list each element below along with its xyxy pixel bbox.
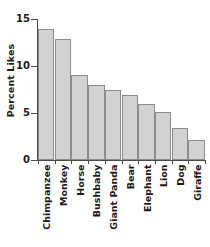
y-axis-tick-mark bbox=[31, 113, 37, 114]
bar bbox=[55, 39, 71, 160]
x-axis-tick-label-text: Horse bbox=[74, 165, 85, 245]
y-axis-tick-mark bbox=[31, 66, 37, 67]
y-axis-title: Percent Likes bbox=[0, 0, 22, 160]
x-axis-tick-label-text: Bear bbox=[124, 165, 135, 245]
x-axis-tick-label-text: Elephant bbox=[141, 165, 152, 245]
bar bbox=[38, 29, 54, 160]
x-axis-tick-label: Giant Panda bbox=[105, 163, 121, 247]
x-axis-tick-label-text: Dog bbox=[174, 165, 185, 245]
x-axis-tick-mark bbox=[172, 160, 173, 164]
y-axis-tick-label: 15 bbox=[0, 14, 30, 24]
x-axis-tick-label: Chimpanzee bbox=[38, 163, 54, 247]
bar-series bbox=[38, 19, 205, 160]
x-axis-tick-mark bbox=[38, 160, 39, 164]
x-axis-tick-label: Lion bbox=[155, 163, 171, 247]
x-axis-tick-mark bbox=[88, 160, 89, 164]
x-axis-tick-mark bbox=[55, 160, 56, 164]
y-axis-tick-label: 0 bbox=[0, 155, 30, 165]
bar bbox=[105, 90, 121, 160]
x-axis-tick-label: Giraffe bbox=[189, 163, 205, 247]
x-axis-tick-label-text: Giant Panda bbox=[108, 165, 119, 245]
x-axis-tick-labels: ChimpanzeeMonkeyHorseBushbabyGiant Panda… bbox=[38, 163, 205, 247]
x-axis-tick-mark bbox=[205, 160, 206, 164]
x-axis-tick-label-text: Bushbaby bbox=[91, 165, 102, 245]
y-axis-tick-mark bbox=[31, 19, 37, 20]
x-axis-tick-mark bbox=[188, 160, 189, 164]
x-axis-tick-label-text: Giraffe bbox=[191, 165, 202, 245]
bar bbox=[172, 128, 188, 160]
x-axis-tick-mark bbox=[122, 160, 123, 164]
x-axis-tick-mark bbox=[155, 160, 156, 164]
x-axis-tick-label: Elephant bbox=[139, 163, 155, 247]
y-axis-tick-label: 5 bbox=[0, 108, 30, 118]
bar bbox=[188, 140, 204, 160]
y-axis-tick-mark bbox=[31, 160, 37, 161]
x-axis-tick-label: Bear bbox=[122, 163, 138, 247]
x-axis-tick-label-text: Monkey bbox=[58, 165, 69, 245]
x-axis-tick-label: Horse bbox=[72, 163, 88, 247]
x-axis-tick-mark bbox=[138, 160, 139, 164]
x-axis-tick-mark bbox=[71, 160, 72, 164]
x-axis-tick-mark bbox=[105, 160, 106, 164]
x-axis-tick-label: Monkey bbox=[55, 163, 71, 247]
x-axis-tick-label: Dog bbox=[172, 163, 188, 247]
y-axis-title-text: Percent Likes bbox=[6, 43, 17, 117]
y-axis-tick-label: 10 bbox=[0, 61, 30, 71]
x-axis-tick-label-text: Chimpanzee bbox=[41, 165, 52, 245]
x-axis-tick-label-text: Lion bbox=[158, 165, 169, 245]
chart-figure: Percent Likes 051015 ChimpanzeeMonkeyHor… bbox=[0, 0, 210, 247]
bar bbox=[88, 85, 104, 160]
bar bbox=[138, 104, 154, 160]
bar bbox=[155, 112, 171, 160]
bar bbox=[122, 95, 138, 160]
bar bbox=[71, 75, 87, 160]
x-axis-tick-label: Bushbaby bbox=[88, 163, 104, 247]
